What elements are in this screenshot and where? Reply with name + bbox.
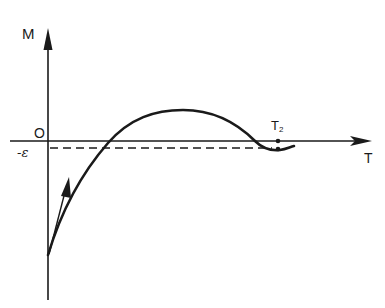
epsilon-label: -ε bbox=[17, 146, 28, 159]
tangent-arrow-line bbox=[49, 188, 66, 254]
t2-axis-dot bbox=[276, 139, 281, 144]
t-axis-label: T bbox=[364, 151, 373, 165]
diagram-canvas bbox=[0, 0, 385, 308]
m-axis-label: M bbox=[22, 26, 35, 41]
tangent-arrowhead-icon bbox=[61, 177, 71, 198]
t2-label-main: T bbox=[271, 118, 279, 133]
t2-curve-dot bbox=[276, 147, 281, 152]
t2-label: T2 bbox=[271, 119, 283, 134]
t2-label-subscript: 2 bbox=[279, 125, 283, 134]
m-curve bbox=[48, 110, 294, 255]
origin-label: O bbox=[34, 126, 45, 140]
m-axis-arrowhead-icon bbox=[44, 28, 53, 50]
